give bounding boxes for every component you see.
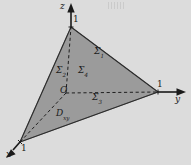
origin-label: O <box>60 86 67 95</box>
sigma-3-subscript: 3 <box>98 99 102 105</box>
axis-x-line <box>13 142 20 150</box>
sigma-1-subscript: 1 <box>100 53 104 59</box>
sigma-2-subscript: 2 <box>62 72 66 78</box>
axis-z-arrow <box>67 3 74 13</box>
label-region-dxy: Dxy <box>56 109 70 120</box>
surface-sigma1-fill <box>20 27 158 142</box>
dxy-subscript: xy <box>63 115 69 121</box>
axis-tick-x-1: 1 <box>21 144 27 153</box>
axis-tick-y-1: 1 <box>157 80 163 89</box>
label-sigma-3: Σ3 <box>92 93 102 104</box>
axis-tick-z-1: 1 <box>73 15 79 24</box>
scan-artifact <box>108 2 126 9</box>
axis-label-y: y <box>175 95 180 104</box>
label-sigma-1: Σ1 <box>94 47 104 58</box>
axis-label-z: z <box>60 2 65 11</box>
sigma-4-subscript: 4 <box>84 72 88 78</box>
label-sigma-2: Σ2 <box>56 66 66 77</box>
label-sigma-4: Σ4 <box>78 66 88 77</box>
axis-label-x: x <box>6 150 11 159</box>
